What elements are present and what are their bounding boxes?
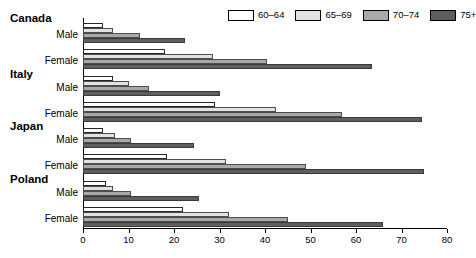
x-axis-tick [265,229,266,233]
x-axis-tick [129,229,130,233]
x-axis-tick [402,229,403,233]
x-axis-tick-label: 0 [80,234,85,245]
bar-japan-male-3 [83,143,194,148]
gender-label: Female [8,108,78,119]
x-axis-tick-label: 60 [351,234,362,245]
bar-canada-male-3 [83,38,185,43]
gender-label: Female [8,55,78,66]
gender-label: Male [8,82,78,93]
x-axis-tick-label: 10 [123,234,134,245]
bar-japan-female-3 [83,169,424,174]
bar-poland-female-3 [83,222,383,227]
x-axis-tick-label: 80 [442,234,453,245]
country-label: Canada [10,12,52,24]
x-axis-tick [174,229,175,233]
country-label: Italy [10,68,33,80]
gender-label: Female [8,213,78,224]
x-axis-tick-label: 30 [214,234,225,245]
country-label: Japan [10,120,43,132]
x-axis-tick [311,229,312,233]
bar-italy-male-3 [83,91,220,96]
bar-canada-female-3 [83,64,372,69]
legend-label: 75+ [460,10,476,20]
x-axis-tick-label: 40 [260,234,271,245]
x-axis-tick [220,229,221,233]
x-axis-tick-label: 70 [396,234,407,245]
bar-italy-female-3 [83,117,422,122]
x-axis-tick [356,229,357,233]
gender-label: Male [8,29,78,40]
x-axis-tick-label: 50 [305,234,316,245]
x-axis-tick-label: 20 [169,234,180,245]
gender-label: Female [8,160,78,171]
x-axis-tick [447,229,448,233]
gender-label: Male [8,187,78,198]
plot-area [83,18,447,229]
bar-poland-male-3 [83,196,199,201]
x-axis-tick [83,229,84,233]
country-label: Poland [10,173,48,185]
gender-label: Male [8,134,78,145]
